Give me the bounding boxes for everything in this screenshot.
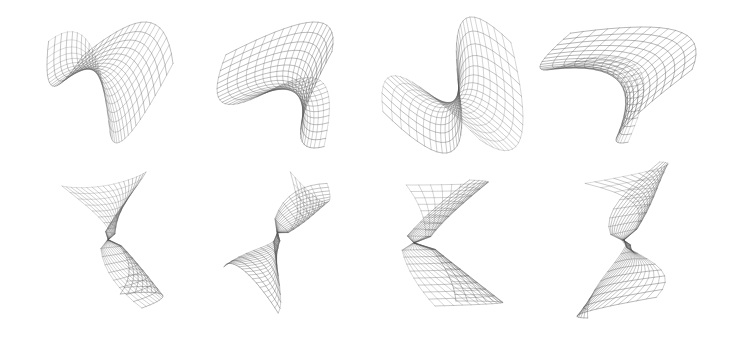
wireframe-panel-top-4 <box>538 25 698 145</box>
wireframe-surface <box>380 15 525 155</box>
wireframe-panel-bot-4 <box>575 160 670 320</box>
wireframe-surface <box>60 170 165 310</box>
wireframe-surface <box>45 20 175 145</box>
wireframe-panel-top-1 <box>45 20 175 145</box>
wireframe-panel-bot-2 <box>222 170 332 315</box>
wireframe-panel-bot-3 <box>400 178 505 308</box>
wireframe-surface <box>222 170 332 315</box>
wireframe-panel-top-3 <box>380 15 525 155</box>
wireframe-surface <box>400 178 505 308</box>
wireframe-surface <box>215 20 335 150</box>
wireframe-surface <box>538 25 698 145</box>
wireframe-surface <box>575 160 670 320</box>
wireframe-panel-bot-1 <box>60 170 165 310</box>
wireframe-panel-top-2 <box>215 20 335 150</box>
